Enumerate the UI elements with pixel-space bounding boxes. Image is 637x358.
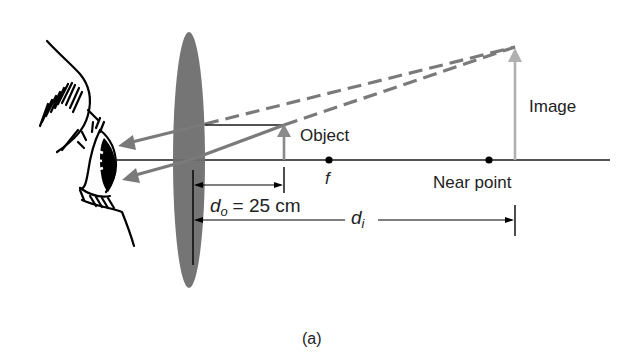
image-label: Image (529, 98, 576, 115)
focal-point-label: f (325, 170, 330, 187)
do-symbol: d (210, 195, 221, 216)
di-symbol: d (351, 207, 362, 228)
do-label: do = 25 cm (210, 196, 301, 218)
arrowhead-icon (274, 182, 283, 188)
near-point-label: Near point (433, 174, 511, 191)
arrowhead-icon (118, 135, 136, 150)
arrowhead-icon (505, 217, 514, 223)
di-subscript: i (362, 216, 365, 231)
do-subscript: o (221, 204, 228, 219)
arrowhead-icon (122, 168, 140, 183)
focal-point-dot (325, 156, 332, 163)
virtual-ray-2 (284, 47, 515, 125)
magnifier-diagram (0, 0, 637, 358)
near-point-dot (485, 156, 492, 163)
object-label: Object (300, 127, 349, 144)
di-label: di (351, 208, 364, 230)
eye-icon (40, 41, 134, 246)
virtual-ray-1 (205, 47, 515, 124)
figure-caption: (a) (302, 331, 322, 347)
do-value: = 25 cm (233, 195, 301, 216)
